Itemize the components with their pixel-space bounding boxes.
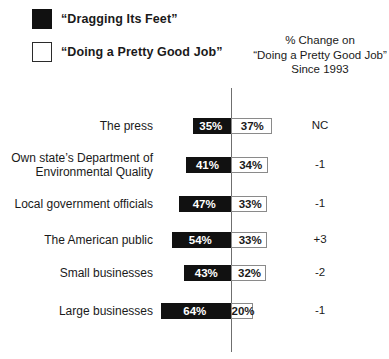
- change-value: -1: [288, 158, 352, 170]
- row-label: The press: [0, 119, 153, 133]
- bar-segment-dragging: 35%: [193, 118, 232, 134]
- bar-segment-dragging: 41%: [186, 157, 231, 173]
- row-label: Large businesses: [0, 304, 153, 318]
- bar-segment-good-job: 32%: [231, 265, 266, 281]
- bar-segment-dragging: 54%: [172, 232, 231, 248]
- diverging-bar-chart: The press 35% 37% NC Own state’s Departm…: [0, 0, 389, 359]
- change-value: NC: [288, 119, 352, 131]
- bar-segment-good-job: 33%: [231, 196, 267, 212]
- bar-segment-good-job: 20%: [231, 303, 253, 319]
- change-value: -2: [288, 266, 352, 278]
- change-value: -1: [288, 197, 352, 209]
- row-label: The American public: [0, 233, 153, 247]
- row-label: Own state’s Department of Environmental …: [0, 151, 153, 179]
- row-label: Small businesses: [0, 266, 153, 280]
- bar-segment-good-job: 33%: [231, 232, 267, 248]
- change-value: -1: [288, 304, 352, 316]
- bar-segment-good-job: 34%: [231, 157, 268, 173]
- bar-segment-dragging: 43%: [184, 265, 231, 281]
- bar-segment-dragging: 64%: [161, 303, 231, 319]
- row-label: Local government officials: [0, 197, 153, 211]
- bar-segment-good-job: 37%: [231, 118, 272, 134]
- bar-segment-dragging: 47%: [179, 196, 231, 212]
- change-value: +3: [288, 233, 352, 245]
